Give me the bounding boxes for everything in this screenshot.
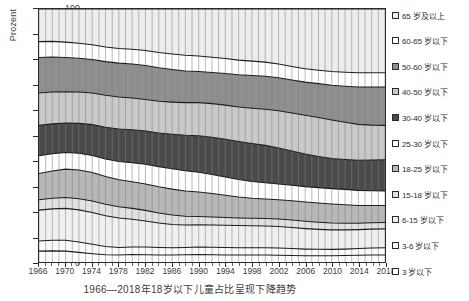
legend-item-label: 3-6 岁以下 bbox=[402, 240, 439, 251]
legend-color-swatch bbox=[392, 191, 399, 198]
x-axis-minor-tick bbox=[212, 263, 213, 266]
legend-color-swatch bbox=[392, 12, 399, 19]
x-axis-minor-tick bbox=[78, 263, 79, 266]
x-axis-tick-label: 2014 bbox=[350, 266, 369, 276]
x-axis-minor-tick bbox=[266, 263, 267, 266]
legend-item-label: 30-40 岁以下 bbox=[402, 112, 448, 123]
legend-item[interactable]: 25-30 岁以下 bbox=[392, 138, 448, 148]
legend-item[interactable]: 40-50 岁以下 bbox=[392, 87, 448, 97]
legend-color-swatch bbox=[392, 63, 399, 70]
x-axis-tick-label: 1978 bbox=[109, 266, 128, 276]
stacked-area-svg bbox=[39, 9, 385, 262]
legend-item-label: 6-15 岁以下 bbox=[402, 214, 443, 225]
x-axis-minor-tick bbox=[158, 263, 159, 266]
legend-item[interactable]: 65 岁及以上 bbox=[392, 10, 444, 20]
x-axis-tick-label: 2002 bbox=[269, 266, 288, 276]
legend-item[interactable]: 18-25 岁以下 bbox=[392, 164, 448, 174]
x-axis-tick-label: 1970 bbox=[55, 266, 74, 276]
x-axis-minor-tick bbox=[346, 263, 347, 266]
x-axis-tick-label: 1994 bbox=[216, 266, 235, 276]
x-axis-tick-label: 1998 bbox=[243, 266, 262, 276]
legend-color-swatch bbox=[392, 88, 399, 95]
legend-item[interactable]: 3-6 岁以下 bbox=[392, 240, 439, 250]
x-axis-minor-tick bbox=[132, 263, 133, 266]
x-axis-tick-label: 2010 bbox=[323, 266, 342, 276]
x-axis-tick-label: 1966 bbox=[29, 266, 48, 276]
x-axis-tick-label: 1990 bbox=[189, 266, 208, 276]
legend-item-label: 50-60 岁以下 bbox=[402, 61, 448, 72]
x-axis-minor-tick bbox=[239, 263, 240, 266]
chart-caption: 1966—2018年18岁以下儿童占比呈现下降趋势 bbox=[0, 281, 380, 296]
legend-color-swatch bbox=[392, 140, 399, 147]
legend-item-label: 60-65 岁以下 bbox=[402, 35, 448, 46]
legend-item-label: 15-18 岁以下 bbox=[402, 189, 448, 200]
legend-item[interactable]: 3 岁以下 bbox=[392, 266, 432, 276]
legend-item-label: 25-30 岁以下 bbox=[402, 138, 448, 149]
x-axis-minor-tick bbox=[185, 263, 186, 266]
x-axis-minor-tick bbox=[319, 263, 320, 266]
legend-item[interactable]: 30-40 岁以下 bbox=[392, 112, 448, 122]
stacked-area-canvas bbox=[39, 9, 385, 262]
legend-color-swatch bbox=[392, 37, 399, 44]
x-axis-minor-tick bbox=[51, 263, 52, 266]
legend-item-label: 18-25 岁以下 bbox=[402, 163, 448, 174]
legend-color-swatch bbox=[392, 216, 399, 223]
legend-item[interactable]: 6-15 岁以下 bbox=[392, 215, 443, 225]
legend-color-swatch bbox=[392, 242, 399, 249]
legend-item-label: 65 岁及以上 bbox=[402, 10, 444, 21]
legend-color-swatch bbox=[392, 268, 399, 275]
x-axis-minor-tick bbox=[373, 263, 374, 266]
legend-item[interactable]: 15-18 岁以下 bbox=[392, 189, 448, 199]
x-axis-minor-tick bbox=[292, 263, 293, 266]
y-axis-title: Prozent bbox=[8, 0, 18, 60]
x-axis-tick-label: 1982 bbox=[136, 266, 155, 276]
x-axis-minor-tick bbox=[105, 263, 106, 266]
legend-color-swatch bbox=[392, 114, 399, 121]
x-axis-tick-label: 2006 bbox=[296, 266, 315, 276]
legend-item-label: 40-50 岁以下 bbox=[402, 86, 448, 97]
legend-item[interactable]: 60-65 岁以下 bbox=[392, 36, 448, 46]
legend-item-label: 3 岁以下 bbox=[402, 266, 432, 277]
x-axis-tick-label: 1974 bbox=[82, 266, 101, 276]
plot-area bbox=[38, 8, 386, 263]
legend-color-swatch bbox=[392, 165, 399, 172]
legend-item[interactable]: 50-60 岁以下 bbox=[392, 61, 448, 71]
chart-figure: Prozent 0102030405060708090100 196619701… bbox=[0, 0, 469, 301]
legend: 65 岁及以上60-65 岁以下50-60 岁以下40-50 岁以下30-40 … bbox=[392, 10, 469, 272]
x-axis-tick-label: 1986 bbox=[162, 266, 181, 276]
